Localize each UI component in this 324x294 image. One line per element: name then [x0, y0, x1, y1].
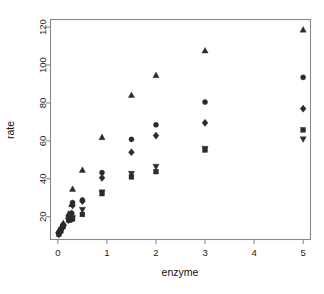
- y-tick-label: 100: [37, 57, 48, 73]
- chart-canvas: 012345 20406080100120 enzyme rate: [0, 0, 324, 294]
- scatter-plot-figure: 012345 20406080100120 enzyme rate: [0, 0, 324, 294]
- x-tick-label: 0: [55, 247, 60, 258]
- y-tick-label: 20: [37, 211, 48, 222]
- x-tick-label: 4: [251, 247, 256, 258]
- x-tick-label: 5: [300, 247, 305, 258]
- data-point-square: [301, 127, 306, 132]
- data-point-circle: [202, 99, 207, 104]
- x-tick-label: 2: [153, 247, 158, 258]
- x-tick-label: 1: [104, 247, 109, 258]
- y-axis-title: rate: [4, 121, 16, 139]
- x-tick-label: 3: [202, 247, 207, 258]
- data-point-circle: [301, 75, 306, 80]
- data-point-circle: [153, 122, 158, 127]
- y-tick-label: 60: [37, 136, 48, 147]
- figure-background: [0, 0, 324, 294]
- x-axis-title: enzyme: [162, 266, 199, 278]
- y-tick-label: 120: [37, 19, 48, 35]
- y-tick-label: 80: [37, 98, 48, 109]
- data-point-circle: [129, 137, 134, 142]
- y-tick-label: 40: [37, 174, 48, 185]
